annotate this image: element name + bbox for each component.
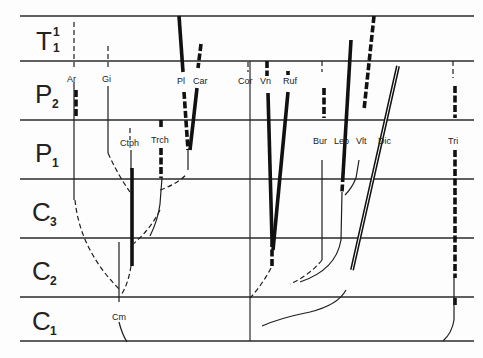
taxon-label-tri: Tri <box>448 136 458 146</box>
taxon-label-ar: Ar <box>67 74 76 84</box>
taxon-label-pl: Pl <box>177 76 185 86</box>
phylogeny-diagram: T 1 1 P 2 P 1 C 3 C 2 C 1 <box>0 0 483 358</box>
taxon-label-gi: Gi <box>102 74 111 84</box>
svg-text:1: 1 <box>53 41 60 55</box>
taxon-label-trch: Trch <box>151 135 169 145</box>
taxon-label-ctph: Ctph <box>120 138 139 148</box>
svg-text:C: C <box>32 306 51 336</box>
taxon-label-vn: Vn <box>260 76 271 86</box>
taxon-label-bur: Bur <box>313 136 327 146</box>
svg-text:C: C <box>32 197 51 227</box>
svg-text:2: 2 <box>52 97 59 111</box>
taxon-label-vit: Vlt <box>356 136 367 146</box>
stage-boundaries <box>20 16 474 341</box>
svg-text:P: P <box>35 138 52 168</box>
stage-labels: T 1 1 P 2 P 1 C 3 C 2 C 1 <box>32 25 60 338</box>
taxon-label-car: Car <box>193 76 208 86</box>
taxon-label-cm: Cm <box>112 312 126 322</box>
taxon-label-leb: Leb <box>334 136 349 146</box>
svg-text:3: 3 <box>50 215 57 229</box>
svg-text:2: 2 <box>50 274 57 288</box>
svg-text:P: P <box>35 79 52 109</box>
svg-text:C: C <box>32 256 51 286</box>
svg-text:1: 1 <box>50 324 57 338</box>
taxon-label-cor: Cor <box>238 76 253 86</box>
taxon-label-dic: Dic <box>378 136 391 146</box>
svg-text:1: 1 <box>53 25 60 39</box>
svg-text:1: 1 <box>52 156 59 170</box>
taxon-label-ruf: Ruf <box>283 76 298 86</box>
diagram-canvas: T 1 1 P 2 P 1 C 3 C 2 C 1 <box>0 0 483 358</box>
svg-text:T: T <box>36 26 52 56</box>
